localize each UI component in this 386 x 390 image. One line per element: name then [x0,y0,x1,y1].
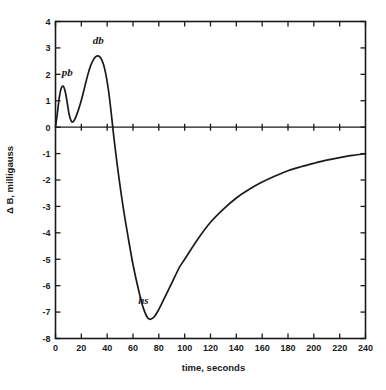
y-tick-label: 4 [45,17,50,27]
x-axis-tick-labels: 020406080100120140160180200220240 [53,343,373,353]
y-tick-label: -7 [42,307,50,317]
y-tick-label: -4 [42,228,50,238]
y-tick-label: -2 [42,175,50,185]
y-tick-label: 3 [45,43,50,53]
y-axis-tick-marks [56,22,366,339]
x-tick-label: 120 [203,343,218,353]
plot-frame-border [56,22,366,339]
annotation-hs: hs [138,294,148,306]
x-tick-label: 40 [102,343,112,353]
x-tick-label: 20 [76,343,86,353]
x-tick-label: 180 [280,343,295,353]
curve-feature-annotations: pbdbhs [61,34,149,306]
delta-b-curve [56,56,366,320]
y-tick-label: -8 [42,334,50,344]
x-tick-label: 200 [306,343,321,353]
x-tick-label: 160 [255,343,270,353]
data-series-group [56,56,366,320]
y-tick-label: 0 [45,123,50,133]
y-tick-label: -1 [42,149,50,159]
x-tick-label: 60 [128,343,138,353]
x-tick-label: 100 [177,343,192,353]
y-tick-label: 2 [45,70,50,80]
x-tick-label: 220 [332,343,347,353]
y-tick-label: 1 [45,96,50,106]
y-axis-label: Δ B, milligauss [4,146,15,214]
annotation-pb: pb [61,66,74,78]
x-tick-label: 240 [358,343,373,353]
chart-figure: 020406080100120140160180200220240 -8-7-6… [0,0,386,390]
x-tick-label: 140 [229,343,244,353]
x-axis-label: time, seconds [182,362,245,373]
y-tick-label: -3 [42,202,50,212]
y-tick-label: -6 [42,281,50,291]
chart-plot-area: 020406080100120140160180200220240 -8-7-6… [0,0,386,390]
y-axis-tick-labels: -8-7-6-5-4-3-2-101234 [42,17,50,344]
y-tick-label: -5 [42,255,50,265]
x-tick-label: 0 [53,343,58,353]
annotation-db: db [93,34,105,46]
x-tick-label: 80 [154,343,164,353]
x-axis-tick-marks [56,22,366,339]
plot-frame [56,22,366,339]
